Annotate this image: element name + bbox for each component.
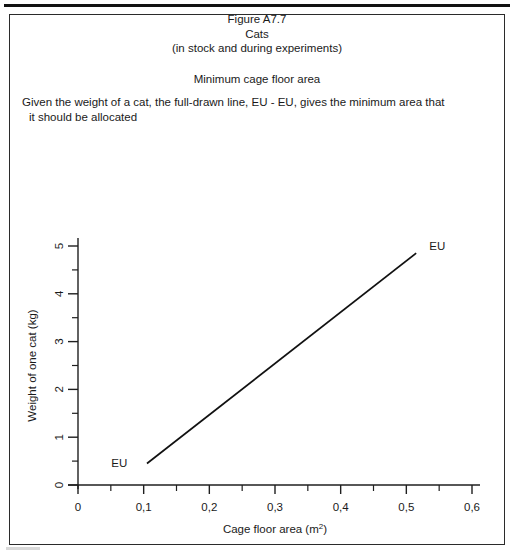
x-tick-label: 0,4 bbox=[333, 501, 350, 513]
y-tick-label: 1 bbox=[53, 434, 65, 440]
y-tick-label: 0 bbox=[53, 482, 65, 488]
line-chart: 012345 00,10,20,30,40,50,6 EUEU Cage flo… bbox=[0, 0, 514, 554]
scan-artifact bbox=[6, 547, 40, 550]
x-axis-title: Cage floor area (m2) bbox=[223, 522, 327, 536]
y-axis-title: Weight of one cat (kg) bbox=[26, 309, 38, 421]
x-tick-label: 0,6 bbox=[464, 501, 480, 513]
y-axis: 012345 bbox=[53, 238, 78, 489]
y-tick-label: 5 bbox=[53, 243, 65, 249]
y-tick-label: 2 bbox=[53, 386, 65, 392]
x-tick-label: 0 bbox=[75, 501, 81, 513]
x-tick-label: 0,5 bbox=[398, 501, 414, 513]
series-endpoint-label: EU bbox=[429, 240, 445, 252]
y-tick-label: 4 bbox=[53, 290, 65, 297]
series-endpoint-label: EU bbox=[111, 457, 127, 469]
data-series-group bbox=[147, 253, 416, 463]
x-tick-label: 0,3 bbox=[267, 501, 283, 513]
plot-area: 012345 00,10,20,30,40,50,6 EUEU Cage flo… bbox=[0, 0, 514, 554]
x-tick-label: 0,1 bbox=[136, 501, 152, 513]
x-tick-label: 0,2 bbox=[201, 501, 217, 513]
series-line-eu bbox=[147, 253, 416, 463]
y-tick-label: 3 bbox=[53, 338, 65, 344]
annotation-group: EUEU bbox=[111, 240, 445, 469]
x-axis: 00,10,20,30,40,50,6 bbox=[68, 485, 480, 513]
